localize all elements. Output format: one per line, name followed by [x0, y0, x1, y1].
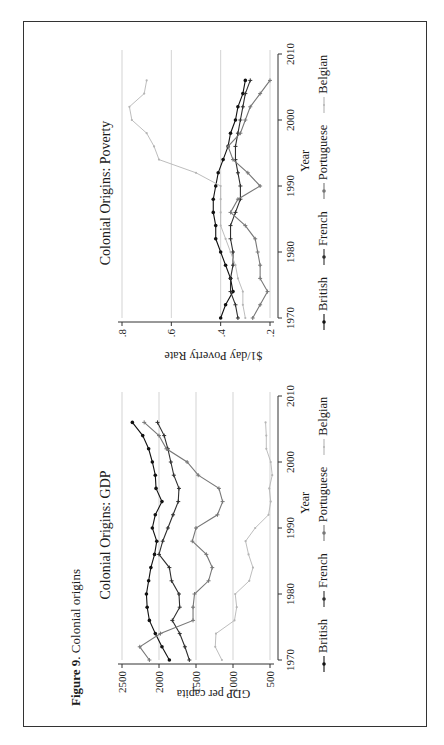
poverty-chart-panel: Colonial Origins: Poverty $1/day Poverty…: [84, 28, 384, 358]
legend-item-french: French: [316, 553, 331, 607]
y-tick-label: .4: [215, 329, 227, 338]
legend-item-portuguese: Portuguese: [316, 467, 331, 542]
legend-label: British: [316, 619, 331, 653]
x-tick-label: 2000: [284, 451, 296, 474]
legend-label: French: [316, 211, 331, 246]
legend-line-marker-icon: [320, 525, 328, 541]
poverty-line-chart: .2.4.6.819701980199020002010: [84, 28, 384, 358]
y-tick-label: 1000: [227, 671, 239, 694]
x-tick-label: 1990: [284, 517, 296, 540]
y-tick-label: 500: [264, 671, 276, 688]
legend-line-marker-icon: [320, 439, 328, 455]
legend-label: Portuguese: [316, 125, 331, 181]
legend-label: British: [316, 277, 331, 311]
y-tick-label: .6: [165, 329, 177, 338]
gdp-line-chart: 500100015002000250019701980199020002010: [84, 370, 384, 700]
series-french: [156, 420, 192, 662]
poverty-chart-legend: BritishFrenchPortugueseBelgian: [316, 55, 331, 330]
legend-line-marker-icon: [320, 314, 328, 330]
legend-line-marker-icon: [320, 656, 328, 672]
x-tick-label: 1970: [284, 649, 296, 672]
series-portuguese: [226, 78, 272, 320]
gdp-chart-legend: BritishFrenchPortugueseBelgian: [316, 397, 331, 672]
legend-label: Belgian: [316, 55, 331, 94]
legend-item-british: British: [316, 619, 331, 672]
x-tick-label: 1980: [284, 241, 296, 264]
figure-caption: Figure 9. Colonial origins: [68, 569, 84, 706]
series-british: [131, 421, 172, 662]
x-tick-label: 2000: [284, 109, 296, 132]
legend-line-marker-icon: [320, 97, 328, 113]
legend-line-marker-icon: [320, 249, 328, 265]
legend-line-marker-icon: [320, 183, 328, 199]
rotated-figure-canvas: Figure 9. Colonial origins Colonial Orig…: [24, 22, 428, 728]
y-tick-label: 1500: [190, 671, 202, 694]
x-tick-label: 1980: [284, 583, 296, 606]
x-tick-label: 2010: [284, 385, 296, 408]
y-tick-label: 2000: [153, 671, 165, 694]
x-tick-label: 1970: [284, 307, 296, 330]
figure-caption-label: Figure 9: [68, 660, 83, 706]
x-tick-label: 1990: [284, 175, 296, 198]
legend-item-portuguese: Portuguese: [316, 125, 331, 200]
legend-label: Portuguese: [316, 467, 331, 523]
legend-item-french: French: [316, 211, 331, 265]
series-belgian: [128, 79, 246, 319]
series-belgian: [214, 421, 273, 661]
x-tick-label: 2010: [284, 43, 296, 66]
y-tick-label: 2500: [116, 671, 128, 694]
figure-frame: Figure 9. Colonial origins Colonial Orig…: [23, 21, 427, 727]
gdp-chart-panel: Colonial Origins: GDP GDP per capita Yea…: [84, 370, 384, 700]
figure-caption-text: . Colonial origins: [68, 569, 83, 660]
legend-item-belgian: Belgian: [316, 397, 331, 455]
legend-label: Belgian: [316, 397, 331, 436]
y-tick-label: .2: [264, 329, 276, 337]
legend-label: French: [316, 553, 331, 588]
legend-line-marker-icon: [320, 591, 328, 607]
y-tick-label: .8: [116, 329, 128, 338]
legend-item-belgian: Belgian: [316, 55, 331, 113]
legend-item-british: British: [316, 277, 331, 330]
